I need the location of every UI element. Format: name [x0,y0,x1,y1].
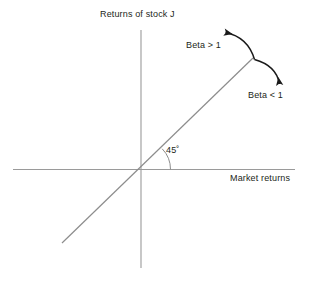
figure-canvas: Returns of stock J Market returns Beta >… [0,0,315,284]
x-axis-label: Market returns [230,173,290,183]
beta-greater-arrow-icon [226,33,255,60]
annotation-beta-less-than-one: Beta < 1 [248,90,283,100]
coordinate-plot [0,0,315,284]
angle-label-45-degrees: 45˚ [166,145,179,155]
page-title: Returns of stock J [100,9,175,19]
characteristic-line [62,58,253,243]
annotation-beta-greater-than-one: Beta > 1 [186,40,221,50]
beta-less-arrow-icon [255,60,280,85]
